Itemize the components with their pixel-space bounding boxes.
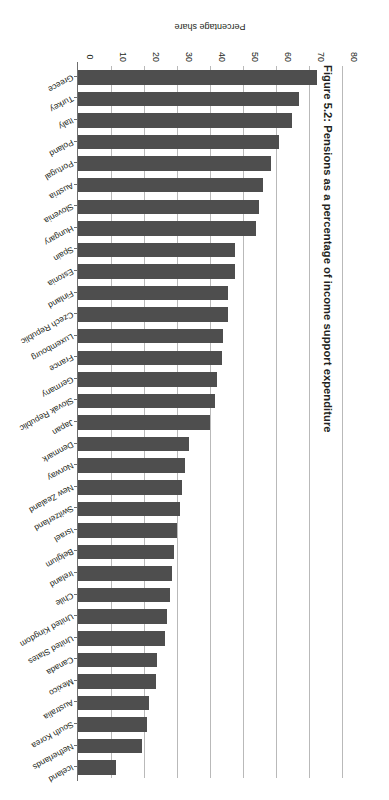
bar-row: [78, 519, 342, 541]
bar-row: [78, 605, 342, 627]
bar: [78, 243, 235, 258]
value-tick-label: 0: [85, 55, 95, 60]
category-label: Chile: [53, 589, 76, 609]
category-label: Israel: [52, 525, 76, 545]
bar-row: [78, 152, 342, 174]
bar: [78, 545, 174, 560]
bar: [78, 394, 215, 409]
bar-row: [78, 735, 342, 757]
gridline: [342, 66, 343, 778]
bar: [78, 135, 279, 150]
bar-row: [78, 66, 342, 88]
plot-area: [78, 66, 342, 778]
bar-row: [78, 627, 342, 649]
bar: [78, 502, 180, 517]
value-tick-label: 60: [283, 52, 293, 62]
bar-row: [78, 174, 342, 196]
value-axis-title: Percentage share: [78, 22, 342, 32]
bar: [78, 458, 185, 473]
bar-row: [78, 131, 342, 153]
bar: [78, 609, 167, 624]
value-tick: 60: [276, 52, 300, 62]
category-axis-line: [77, 62, 78, 781]
bar: [78, 113, 293, 128]
bar-row: [78, 411, 342, 433]
value-tick: 0: [78, 52, 102, 62]
value-axis: 01020304050607080: [78, 36, 342, 62]
bar-row: [78, 498, 342, 520]
bar-row: [78, 260, 342, 282]
bar-row: [78, 454, 342, 476]
bar: [78, 523, 177, 538]
value-tick-label: 50: [250, 52, 260, 62]
category-label: Poland: [47, 136, 76, 159]
value-tick: 70: [309, 52, 333, 62]
bar-row: [78, 713, 342, 735]
bar-row: [78, 239, 342, 261]
bar-row: [78, 303, 342, 325]
category-label: Ireland: [48, 568, 76, 591]
bar-row: [78, 109, 342, 131]
value-tick-label: 30: [184, 52, 194, 62]
bar-row: [78, 584, 342, 606]
bar: [78, 178, 263, 193]
bar-row: [78, 541, 342, 563]
value-tick: 50: [243, 52, 267, 62]
value-tick: 40: [210, 52, 234, 62]
bar: [78, 92, 299, 107]
bar: [78, 329, 223, 344]
bar: [78, 70, 317, 85]
bar-row: [78, 562, 342, 584]
category-label: Estonia: [46, 266, 76, 290]
value-tick: 20: [144, 52, 168, 62]
bar: [78, 286, 228, 301]
category-label: Japan: [50, 417, 76, 439]
bar: [78, 696, 149, 711]
value-tick-label: 10: [118, 52, 128, 62]
bar: [78, 480, 182, 495]
bar: [78, 156, 271, 171]
category-label: Greece: [46, 72, 76, 96]
figure-root: Figure 5.2: Pensions as a percentage of …: [0, 0, 389, 800]
bar: [78, 674, 156, 689]
category-label: Turkey: [48, 93, 76, 116]
bar-row: [78, 649, 342, 671]
bar: [78, 307, 228, 322]
bar-row: [78, 217, 342, 239]
bar-row: [78, 88, 342, 110]
bar: [78, 631, 165, 646]
bar: [78, 221, 256, 236]
bar: [78, 372, 217, 387]
bar: [78, 351, 222, 366]
category-label: Iceland: [46, 762, 75, 786]
category-label: Mexico: [47, 676, 76, 699]
bar: [78, 415, 210, 430]
bar-row: [78, 433, 342, 455]
bar: [78, 264, 235, 279]
bar: [78, 761, 116, 776]
bar: [78, 739, 142, 754]
value-tick-label: 70: [316, 52, 326, 62]
bar: [78, 566, 172, 581]
value-tick-label: 20: [151, 52, 161, 62]
bar: [78, 437, 189, 452]
bar-row: [78, 325, 342, 347]
bar-row: [78, 670, 342, 692]
bar-row: [78, 195, 342, 217]
bar-row: [78, 347, 342, 369]
category-label: Portugal: [43, 158, 76, 184]
category-label: France: [47, 352, 76, 375]
value-tick-label: 40: [217, 52, 227, 62]
bar: [78, 653, 157, 668]
bar: [78, 588, 170, 603]
category-label: Austria: [47, 179, 76, 202]
category-label: Finland: [46, 287, 76, 311]
bar: [78, 200, 260, 215]
category-label: Belgium: [44, 546, 76, 571]
bar: [78, 717, 147, 732]
bar-row: [78, 282, 342, 304]
value-tick: 80: [342, 52, 366, 62]
category-label: Spain: [51, 244, 76, 265]
category-label: Italy: [57, 115, 76, 133]
bar-row: [78, 368, 342, 390]
